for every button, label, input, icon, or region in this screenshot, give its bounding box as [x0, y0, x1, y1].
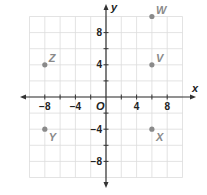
- y-axis-up-arrow-icon: [104, 4, 109, 10]
- point-dot-icon: [149, 127, 154, 132]
- point-label: Y: [49, 131, 58, 143]
- axes: x y O: [20, 1, 199, 188]
- y-axis-down-arrow-icon: [104, 182, 109, 188]
- point-dot-icon: [42, 62, 47, 67]
- x-tick-label: −8: [39, 101, 51, 112]
- y-axis-label: y: [110, 1, 118, 13]
- point-label: V: [156, 52, 165, 64]
- point-dot-icon: [149, 14, 154, 19]
- y-tick-label: 4: [96, 59, 102, 70]
- point-dot-icon: [149, 62, 154, 67]
- y-tick-label: 8: [96, 27, 102, 38]
- y-tick-label: −8: [91, 156, 103, 167]
- point-dot-icon: [42, 127, 47, 132]
- y-tick-label: −4: [91, 124, 103, 135]
- coordinate-plane: x y O −8−44884−4−8 WVZYX: [0, 0, 207, 195]
- point-label: Z: [48, 52, 57, 64]
- x-axis-label: x: [191, 82, 199, 94]
- x-axis-right-arrow-icon: [190, 95, 196, 100]
- x-tick-label: −4: [70, 101, 82, 112]
- point-label: W: [156, 4, 168, 16]
- point-label: X: [155, 131, 164, 143]
- x-tick-label: 4: [134, 101, 140, 112]
- points: WVZYX: [42, 4, 168, 144]
- x-tick-label: 8: [164, 101, 170, 112]
- x-axis-left-arrow-icon: [20, 95, 26, 100]
- origin-label: O: [96, 100, 105, 112]
